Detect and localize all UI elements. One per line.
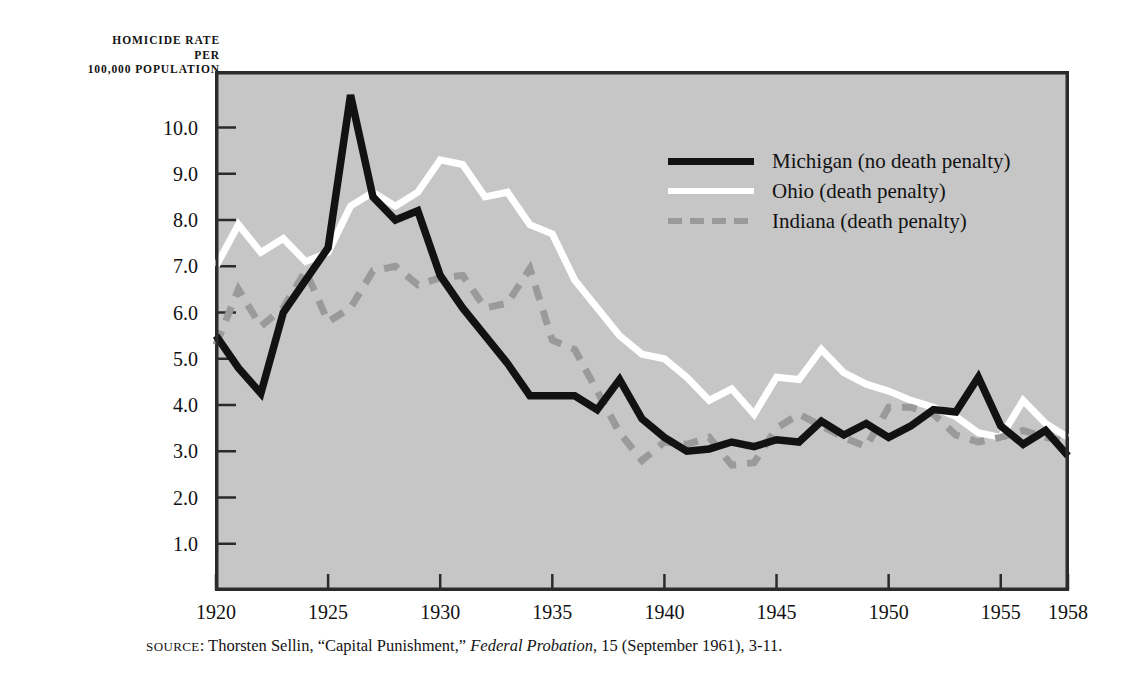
y-axis-tick-label: 4.0 (132, 395, 198, 415)
chart-plot-area (0, 0, 1130, 678)
x-axis-tick-label: 1935 (512, 602, 592, 622)
legend-item-michigan: Michigan (no death penalty) (668, 146, 1011, 176)
legend-item-ohio: Ohio (death penalty) (668, 176, 1011, 206)
homicide-rate-figure: HOMICIDE RATE PER 100,000 POPULATION 1.0… (0, 0, 1130, 678)
y-axis-tick-label: 2.0 (132, 488, 198, 508)
y-axis-tick-label: 5.0 (132, 349, 198, 369)
x-axis-tick-label: 1950 (849, 602, 929, 622)
legend-swatch-michigan-icon (668, 153, 754, 169)
y-axis-tick-label: 1.0 (132, 534, 198, 554)
x-axis-tick-label: 1958 (1028, 602, 1108, 622)
legend-item-indiana: Indiana (death penalty) (668, 206, 1011, 236)
x-axis-tick-label: 1945 (737, 602, 817, 622)
legend-swatch-indiana-icon (668, 213, 754, 229)
y-axis-tick-label: 9.0 (132, 164, 198, 184)
y-axis-tick-label: 10.0 (132, 118, 198, 138)
source-note-prefix: SOURCE (146, 639, 200, 654)
legend-label-indiana: Indiana (death penalty) (772, 209, 967, 234)
x-axis-tick-label: 1930 (400, 602, 480, 622)
x-axis-tick-label: 1920 (176, 602, 256, 622)
source-note-publication: Federal Probation (470, 636, 593, 655)
y-axis-tick-label: 7.0 (132, 256, 198, 276)
source-note: SOURCE: Thorsten Sellin, “Capital Punish… (146, 636, 782, 656)
y-axis-tick-label: 3.0 (132, 441, 198, 461)
source-note-text-1: : Thorsten Sellin, “Capital Punishment,” (200, 636, 471, 655)
legend-label-michigan: Michigan (no death penalty) (772, 149, 1011, 174)
y-axis-tick-label: 6.0 (132, 303, 198, 323)
chart-legend: Michigan (no death penalty) Ohio (death … (668, 146, 1011, 236)
legend-swatch-ohio-icon (668, 183, 754, 199)
x-axis-tick-label: 1940 (624, 602, 704, 622)
y-axis-tick-label: 8.0 (132, 210, 198, 230)
legend-label-ohio: Ohio (death penalty) (772, 179, 946, 204)
x-axis-tick-label: 1925 (288, 602, 368, 622)
source-note-text-2: , 15 (September 1961), 3-11. (593, 636, 783, 655)
